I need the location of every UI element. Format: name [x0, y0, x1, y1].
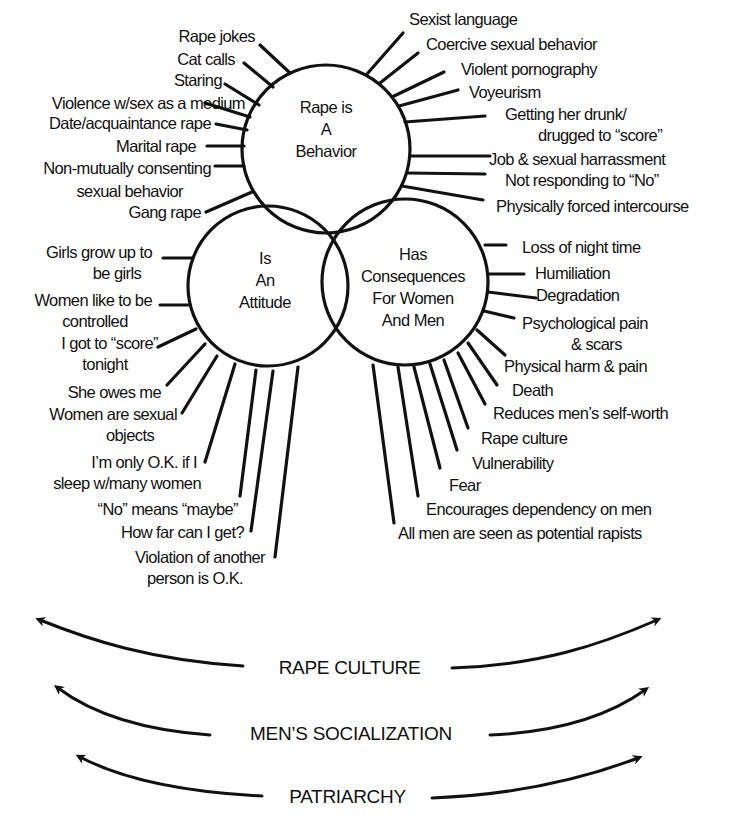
consequence-label: Psychological pain: [522, 314, 648, 333]
behavior-spokes-right: [367, 33, 490, 200]
attitude-label: Women are sexual: [49, 405, 177, 424]
attitude-label: Women like to be: [34, 291, 152, 310]
consequence-label: Reduces men’s self-worth: [493, 404, 668, 423]
consequence-label: Encourages dependency on men: [426, 500, 651, 519]
behavior-label: Non-mutually consenting: [43, 159, 211, 178]
rape-culture-arrow-left: [40, 620, 243, 666]
patriarchy-arrow-right: [432, 758, 638, 798]
patriarchy-arrow-left: [80, 757, 262, 796]
circle-consequences-label: Has Consequences For Women And Men: [348, 243, 478, 331]
attitude-label: objects: [95, 426, 165, 445]
band-patriarchy: PATRIARCHY: [265, 786, 430, 808]
band-mens-socialization: MEN’S SOCIALIZATION: [216, 723, 486, 745]
behavior-label: Coercive sexual behavior: [426, 35, 597, 54]
behavior-label: Rape jokes: [178, 27, 255, 46]
consequence-label: All men are seen as potential rapists: [398, 524, 642, 543]
consequence-label: Physical harm & pain: [504, 357, 647, 376]
behavior-label: sexual behavior: [76, 182, 183, 201]
consequence-label: Fear: [449, 476, 481, 495]
attitude-label: sleep w/many women: [53, 474, 201, 493]
consequence-label: Vulnerability: [472, 454, 553, 473]
behavior-label: Not responding to “No”: [505, 171, 659, 190]
consequence-label: Loss of night time: [522, 238, 641, 257]
behavior-label: Violence w/sex as a medium: [52, 94, 245, 113]
attitude-label: I got to “score”: [61, 334, 158, 353]
behavior-label: Getting her drunk/: [505, 105, 626, 124]
consequence-label: Rape culture: [481, 429, 567, 448]
attitude-label: Violation of another: [135, 548, 265, 567]
band-arrows: [40, 620, 657, 798]
rape-culture-arrow-right: [452, 620, 657, 668]
behavior-label: Date/acquaintance rape: [49, 114, 211, 133]
attitude-label: How far can I get?: [121, 523, 244, 542]
behavior-label: Sexist language: [409, 10, 517, 29]
attitude-label: controlled: [40, 312, 150, 331]
behavior-label: Marital rape: [116, 137, 196, 156]
socialization-arrow-left: [58, 688, 210, 735]
behavior-label: Physically forced intercourse: [496, 197, 689, 216]
attitude-label: I’m only O.K. if I: [91, 453, 197, 472]
attitude-label: She owes me: [68, 383, 161, 402]
behavior-label: Voyeurism: [469, 83, 541, 102]
attitude-label: tonight: [65, 355, 145, 374]
consequence-label: Death: [512, 381, 553, 400]
behavior-label: Gang rape: [128, 203, 201, 222]
socialization-arrow-right: [490, 690, 645, 735]
behavior-label: drugged to “score”: [538, 126, 662, 145]
behavior-label: Job & sexual harrassment: [489, 150, 665, 169]
attitude-label: person is O.K.: [140, 569, 250, 588]
attitude-label: Girls grow up to: [46, 243, 152, 262]
behavior-label: Violent pornography: [461, 60, 597, 79]
consequence-label: & scars: [571, 335, 622, 354]
behavior-label: Cat calls: [177, 50, 235, 69]
behavior-label: Staring: [174, 71, 222, 90]
band-rape-culture: RAPE CULTURE: [247, 657, 452, 679]
consequence-label: Humiliation: [535, 264, 610, 283]
consequence-label: Degradation: [536, 286, 619, 305]
circle-attitude-label: Is An Attitude: [220, 247, 310, 313]
attitude-label: be girls: [62, 264, 172, 283]
circle-behavior-label: Rape is A Behavior: [276, 96, 376, 162]
attitude-label: “No” means “maybe”: [98, 500, 239, 519]
